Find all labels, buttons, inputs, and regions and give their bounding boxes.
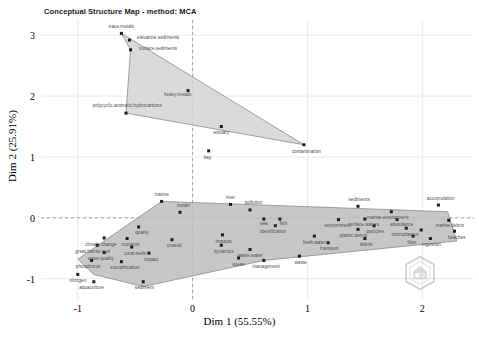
point-label: sediment <box>135 285 154 290</box>
data-point <box>262 259 265 262</box>
data-point <box>76 273 79 276</box>
point-label: transport <box>320 246 339 251</box>
data-point <box>129 48 132 51</box>
data-point <box>220 244 223 247</box>
point-label: accumulation <box>427 196 455 201</box>
data-point <box>103 236 106 239</box>
point-label: aquaculture <box>79 285 104 290</box>
data-point <box>124 112 127 115</box>
data-point <box>128 39 131 42</box>
x-tick-label: 0 <box>190 303 195 314</box>
point-label: impact <box>144 257 158 262</box>
x-tick-label: 2 <box>420 303 425 314</box>
point-label: great.barrier.reef <box>75 249 110 254</box>
data-point <box>160 200 163 203</box>
point-label: ocean <box>232 262 245 267</box>
point-label: nutrients <box>122 242 140 247</box>
point-label: contamination <box>292 149 321 154</box>
point-label: particles <box>366 229 384 234</box>
point-label: estuary <box>214 130 229 135</box>
point-label: waste.water <box>238 253 263 258</box>
data-point <box>363 218 366 221</box>
y-tick-label: -1 <box>17 273 35 284</box>
point-label: identification <box>260 229 286 234</box>
point-label: management <box>252 264 279 269</box>
point-label: polycyclic.aromatic.hydrocarbons <box>92 103 161 108</box>
data-point <box>126 237 129 240</box>
point-label: sediments <box>348 197 369 202</box>
point-label: fresh.water <box>303 240 326 245</box>
data-point <box>137 225 140 228</box>
point-label: waste <box>294 260 306 265</box>
point-label: trace.metals <box>109 24 135 29</box>
data-point <box>313 235 316 238</box>
data-point <box>274 224 277 227</box>
point-label: sea <box>260 221 268 226</box>
data-point <box>356 205 359 208</box>
data-point <box>147 252 150 255</box>
bibliometrix-logo-watermark <box>404 256 436 290</box>
point-label: phosphorus <box>76 264 101 269</box>
point-label: marine <box>154 192 168 197</box>
data-point <box>303 143 306 146</box>
data-point <box>447 219 450 222</box>
point-label: abundance <box>390 222 413 227</box>
y-tick-label: 0 <box>17 212 35 223</box>
point-label: ingestion <box>422 242 441 247</box>
point-label: fish <box>280 221 287 226</box>
point-label: climate.change <box>85 242 117 247</box>
point-label: nitrogen <box>69 278 86 283</box>
point-label: debris <box>360 242 373 247</box>
point-label: eutrophication <box>110 265 140 270</box>
point-label: heavy.metals <box>164 92 191 97</box>
point-label: marine.environment <box>367 215 409 220</box>
y-tick-label: 3 <box>17 30 35 41</box>
conceptual-structure-map: Conceptual Structure Map - method: MCA t… <box>0 0 479 337</box>
point-label: plastic.debris <box>340 233 368 238</box>
data-point <box>429 237 432 240</box>
y-tick-label: 2 <box>17 91 35 102</box>
data-point <box>120 32 123 35</box>
point-label: beaches <box>448 235 466 240</box>
data-point <box>229 203 232 206</box>
point-label: coral.reefs <box>124 251 146 256</box>
data-point <box>298 255 301 258</box>
data-point <box>92 280 95 283</box>
data-point <box>178 211 181 214</box>
data-point <box>142 280 145 283</box>
point-label: model <box>177 203 190 208</box>
point-label: impacts <box>216 239 232 244</box>
data-point <box>327 241 330 244</box>
x-axis-title: Dim 1 (55.55%) <box>0 315 479 327</box>
data-point <box>221 233 224 236</box>
x-tick-label: -1 <box>74 303 82 314</box>
y-tick-label: 1 <box>17 151 35 162</box>
point-label: estuarine.sediments <box>137 35 179 40</box>
point-label: dynamics <box>214 249 234 254</box>
data-point <box>220 125 223 128</box>
point-label: water.quality <box>88 256 114 261</box>
cluster-hulls <box>78 33 457 286</box>
y-axis-title: Dim 2 (25.91%) <box>6 76 18 216</box>
point-label: litter <box>407 240 416 245</box>
point-label: bay <box>204 155 212 160</box>
data-point <box>390 210 393 213</box>
point-label: quality <box>135 230 149 235</box>
data-point <box>420 229 423 232</box>
point-label: coastal <box>167 243 182 248</box>
point-label: surface.waters <box>348 222 379 227</box>
data-point <box>249 208 252 211</box>
x-tick-label: 1 <box>305 303 310 314</box>
point-label: environment <box>324 223 350 228</box>
point-label: microplastics <box>391 232 418 237</box>
point-label: river <box>226 195 235 200</box>
data-point <box>356 228 359 231</box>
data-point <box>453 230 456 233</box>
data-point <box>337 218 340 221</box>
data-point <box>249 248 252 251</box>
data-point <box>120 260 123 263</box>
data-point <box>207 149 210 152</box>
point-label: marine.debris <box>436 223 464 228</box>
point-label: pollution <box>245 200 263 205</box>
point-label: surface.sediments <box>139 46 177 51</box>
